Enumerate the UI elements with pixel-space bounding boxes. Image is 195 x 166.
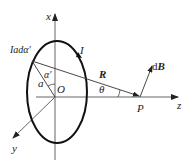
y-axis [13, 97, 55, 138]
db-vector [140, 66, 152, 97]
db-label: dB [152, 60, 165, 72]
theta-label: θ [99, 83, 105, 95]
x-axis-label: x [45, 10, 51, 22]
z-axis-label: z [176, 99, 182, 111]
origin-label: O [57, 83, 65, 95]
alpha-label: α′ [44, 69, 52, 80]
theta-arc [118, 90, 120, 97]
y-axis-label: y [11, 142, 17, 154]
loop-field-diagram: x y z O P I Iadα′ R dB θ a α′ [0, 0, 195, 166]
current-label: I [79, 44, 85, 56]
current-element-label: Iadα′ [9, 44, 32, 55]
alpha-arc [48, 84, 55, 86]
r-vector-label: R [98, 68, 106, 80]
point-p-label: P [136, 102, 144, 114]
